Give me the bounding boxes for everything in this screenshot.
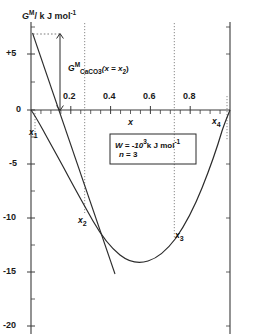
chart-svg: [0, 0, 259, 336]
gibbs-mixing-curve: [31, 110, 230, 262]
point-label-x3-index: 3: [180, 235, 184, 242]
point-label-x1: x1: [29, 128, 38, 139]
point-label-x1-index: 1: [34, 132, 38, 139]
x-axis-minor-ticks: [41, 110, 220, 114]
partial-molar-condition-end: ): [126, 64, 129, 73]
y-tick-label-0: 0: [16, 105, 21, 114]
parameter-box-line-W: W = -103k J mol-1: [115, 139, 180, 150]
right-axis-ticks: [226, 27, 230, 326]
x-tick-label-0p8: 0.8: [183, 92, 196, 101]
x-tick-label-0p2: 0.2: [63, 92, 76, 101]
partial-molar-subscript: CaCO: [80, 68, 98, 75]
x-tick-label-0p4: 0.4: [103, 92, 116, 101]
x-axis-title: x: [128, 118, 133, 127]
parameter-box-line-n: n = 3: [119, 151, 137, 159]
y-tick-label-minus15: -15: [3, 267, 16, 276]
parameter-W-text: W = -10: [115, 141, 143, 150]
point-label-x2-index: 2: [83, 220, 87, 227]
point-label-x4: x4: [212, 117, 221, 128]
parameter-W-units-exponent: -1: [174, 138, 180, 145]
y-axis-title: GM/ k J mol-1: [22, 10, 76, 21]
y-axis-minor-ticks: [31, 27, 35, 299]
partial-molar-annotation: GMCaCO3(x = x2): [68, 62, 129, 75]
point-label-x3: x3: [175, 231, 184, 242]
y-tick-label-minus20: -20: [3, 321, 16, 330]
point-label-x2: x2: [78, 216, 87, 227]
point-label-x4-index: 4: [217, 121, 221, 128]
y-axis-title-units-exponent: -1: [70, 9, 76, 16]
partial-molar-condition: (x = x: [102, 64, 123, 73]
y-axis-title-symbol: G: [22, 11, 29, 21]
parameter-n-value: = 3: [124, 150, 138, 159]
x-tick-label-0p6: 0.6: [143, 92, 156, 101]
y-tick-label-minus10: -10: [3, 213, 16, 222]
y-tick-label-minus5: -5: [9, 159, 17, 168]
partial-molar-symbol: G: [68, 63, 75, 73]
chart-figure: +5 0 -5 -10 -15 -20 0.2 0.4 0.6 0.8 GM/ …: [0, 0, 259, 336]
parameter-W-units: k J mol: [147, 141, 175, 150]
y-axis-title-units: / k J mol: [34, 11, 70, 21]
y-tick-label-plus5: +5: [6, 49, 16, 58]
